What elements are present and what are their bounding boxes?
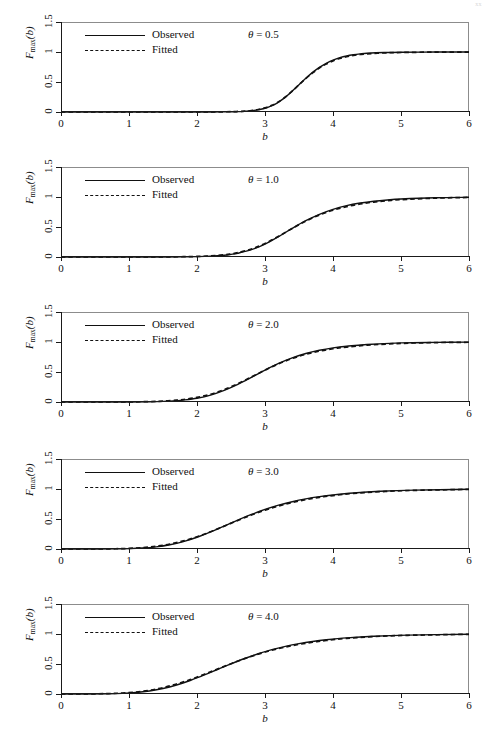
- y-tick-label: 0.5: [42, 655, 54, 671]
- curve-observed: [61, 52, 469, 112]
- y-tick: [56, 112, 61, 113]
- x-tick: [61, 256, 62, 261]
- legend-entry: Fitted: [85, 188, 215, 203]
- x-tick-label: 3: [253, 554, 277, 566]
- y-tick-label: 1: [42, 43, 54, 59]
- y-axis-label: Fmax(b): [23, 593, 36, 657]
- x-tick: [129, 111, 130, 116]
- x-tick-label: 5: [389, 262, 413, 274]
- y-tick: [56, 402, 61, 403]
- legend-label: Observed: [152, 28, 194, 40]
- x-tick-label: 1: [117, 262, 141, 274]
- x-tick-label: 6: [457, 262, 481, 274]
- chart-panel: 012345600.511.5Fmax(b)bObservedFittedθ =…: [0, 290, 488, 435]
- x-tick-label: 4: [321, 407, 345, 419]
- x-tick-label: 2: [185, 554, 209, 566]
- y-tick: [56, 312, 61, 313]
- x-tick-label: 2: [185, 699, 209, 711]
- legend-label: Observed: [152, 318, 194, 330]
- x-tick: [469, 111, 470, 116]
- x-tick: [401, 111, 402, 116]
- y-axis-line: [61, 312, 62, 402]
- legend-label: Fitted: [152, 188, 178, 200]
- y-tick: [56, 694, 61, 695]
- y-tick-label: 1: [42, 188, 54, 204]
- x-tick-label: 1: [117, 699, 141, 711]
- y-tick-label: 1.5: [42, 595, 54, 611]
- legend-swatch-solid: [85, 325, 145, 326]
- legend-swatch-solid: [85, 472, 145, 473]
- x-tick: [265, 548, 266, 553]
- x-tick-label: 1: [117, 117, 141, 129]
- x-tick: [401, 693, 402, 698]
- x-tick-label: 2: [185, 262, 209, 274]
- y-tick-label: 1: [42, 480, 54, 496]
- y-tick: [56, 549, 61, 550]
- x-tick-label: 5: [389, 554, 413, 566]
- x-tick: [333, 548, 334, 553]
- x-axis-label: b: [61, 420, 469, 432]
- y-tick: [56, 227, 61, 228]
- y-tick-label: 0: [42, 103, 54, 119]
- x-tick: [197, 111, 198, 116]
- y-axis-label: Fmax(b): [23, 11, 36, 75]
- y-tick: [56, 197, 61, 198]
- legend-label: Observed: [152, 173, 194, 185]
- x-tick-label: 5: [389, 699, 413, 711]
- x-tick-label: 3: [253, 117, 277, 129]
- y-tick-label: 0.5: [42, 73, 54, 89]
- x-axis-label: b: [61, 275, 469, 287]
- chart-legend: ObservedFitted: [85, 465, 215, 497]
- x-tick: [61, 693, 62, 698]
- legend-label: Observed: [152, 610, 194, 622]
- y-tick-label: 0.5: [42, 363, 54, 379]
- legend-label: Fitted: [152, 480, 178, 492]
- legend-label: Fitted: [152, 333, 178, 345]
- y-tick: [56, 634, 61, 635]
- y-tick-label: 1.5: [42, 450, 54, 466]
- y-tick: [56, 22, 61, 23]
- x-tick: [333, 111, 334, 116]
- y-tick: [56, 519, 61, 520]
- y-tick: [56, 604, 61, 605]
- legend-swatch-dashed: [85, 340, 145, 341]
- legend-swatch-solid: [85, 35, 145, 36]
- x-tick: [61, 548, 62, 553]
- curve-fitted: [61, 634, 469, 694]
- legend-swatch-solid: [85, 180, 145, 181]
- x-tick-label: 6: [457, 699, 481, 711]
- x-tick-label: 2: [185, 407, 209, 419]
- legend-entry: Observed: [85, 28, 215, 43]
- x-tick-label: 4: [321, 117, 345, 129]
- y-tick-label: 1.5: [42, 158, 54, 174]
- y-axis-line: [61, 167, 62, 257]
- legend-entry: Observed: [85, 610, 215, 625]
- x-tick: [469, 548, 470, 553]
- x-tick: [129, 401, 130, 406]
- x-tick: [265, 111, 266, 116]
- y-axis-label: Fmax(b): [23, 156, 36, 220]
- y-axis-line: [61, 22, 62, 112]
- y-tick: [56, 372, 61, 373]
- x-tick: [129, 256, 130, 261]
- legend-entry: Observed: [85, 318, 215, 333]
- legend-swatch-dashed: [85, 195, 145, 196]
- x-axis-label: b: [61, 130, 469, 142]
- x-tick: [265, 256, 266, 261]
- x-tick-label: 6: [457, 554, 481, 566]
- legend-label: Fitted: [152, 625, 178, 637]
- x-tick: [129, 693, 130, 698]
- legend-entry: Fitted: [85, 43, 215, 58]
- x-tick: [333, 693, 334, 698]
- x-axis-label: b: [61, 712, 469, 724]
- x-tick-label: 5: [389, 117, 413, 129]
- figure-page: xx 012345600.511.5Fmax(b)bObservedFitted…: [0, 0, 488, 735]
- curve-fitted: [61, 197, 469, 257]
- y-tick: [56, 459, 61, 460]
- legend-swatch-dashed: [85, 487, 145, 488]
- theta-annotation: θ = 0.5: [248, 28, 279, 40]
- x-tick-label: 6: [457, 117, 481, 129]
- chart-legend: ObservedFitted: [85, 173, 215, 205]
- y-tick: [56, 257, 61, 258]
- legend-swatch-solid: [85, 617, 145, 618]
